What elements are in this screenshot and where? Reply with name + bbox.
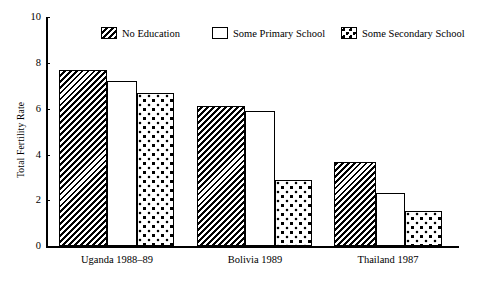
bar-bolivia-no-education xyxy=(197,106,245,246)
bar-bolivia-some-secondary-school xyxy=(275,180,312,246)
y-axis-line xyxy=(46,17,48,247)
bar-bolivia-some-primary-school xyxy=(245,111,275,246)
legend-label-some-primary-school: Some Primary School xyxy=(233,28,325,39)
white-swatch xyxy=(212,27,228,39)
y-tick-label-2: 2 xyxy=(19,195,41,205)
y-tick-label-0: 0 xyxy=(19,241,41,251)
bar-thailand-some-primary-school xyxy=(376,193,405,246)
y-tick-label-6: 6 xyxy=(19,104,41,114)
legend-item-some-primary-school: Some Primary School xyxy=(212,27,325,39)
hatch-swatch xyxy=(101,27,117,39)
legend-label-no-education: No Education xyxy=(122,28,180,39)
y-tick-10 xyxy=(46,17,50,18)
y-tick-4 xyxy=(46,155,50,156)
y-tick-label-8: 8 xyxy=(19,58,41,68)
y-tick-6 xyxy=(46,109,50,110)
dots-swatch xyxy=(341,27,357,39)
x-group-label-uganda: Uganda 1988–89 xyxy=(57,254,177,266)
y-tick-label-4: 4 xyxy=(19,150,41,160)
x-axis-line xyxy=(46,246,459,248)
bar-thailand-no-education xyxy=(334,162,376,246)
x-group-label-thailand: Thailand 1987 xyxy=(328,254,448,266)
bar-uganda-no-education xyxy=(59,70,107,246)
y-tick-8 xyxy=(46,63,50,64)
bar-thailand-some-secondary-school xyxy=(405,211,442,246)
legend-label-some-secondary-school: Some Secondary School xyxy=(362,28,465,39)
x-group-label-bolivia: Bolivia 1989 xyxy=(195,254,315,266)
y-tick-2 xyxy=(46,200,50,201)
legend-item-some-secondary-school: Some Secondary School xyxy=(341,27,465,39)
legend-item-no-education: No Education xyxy=(101,27,180,39)
y-tick-label-10: 10 xyxy=(19,12,41,22)
bar-uganda-some-secondary-school xyxy=(137,93,174,246)
bar-uganda-some-primary-school xyxy=(107,81,137,246)
fertility-bar-chart: Total Fertility Rate 10 8 6 4 2 0 No Edu… xyxy=(0,0,503,283)
